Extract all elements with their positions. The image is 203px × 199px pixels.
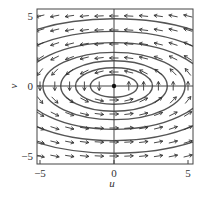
arrow-icon bbox=[169, 112, 177, 116]
x-axis-label: u bbox=[109, 177, 115, 189]
arrow-icon bbox=[154, 28, 163, 31]
arrow-icon bbox=[154, 42, 163, 45]
arrow-icon bbox=[184, 126, 192, 130]
arrow-icon bbox=[37, 68, 43, 75]
arrow-icon bbox=[154, 14, 163, 17]
arrow-icon bbox=[95, 112, 104, 115]
arrow-icon bbox=[124, 112, 133, 115]
arrow-icon bbox=[80, 140, 89, 143]
arrow-icon bbox=[169, 42, 178, 45]
arrow-icon bbox=[184, 14, 193, 17]
arrow-icon bbox=[51, 56, 59, 60]
arrow-icon bbox=[169, 56, 177, 60]
arrow-icon bbox=[139, 112, 148, 115]
arrow-icon bbox=[95, 71, 104, 74]
x-tick-label: −5 bbox=[34, 167, 46, 179]
arrow-icon bbox=[80, 57, 89, 60]
arrow-icon bbox=[80, 28, 89, 31]
arrow-icon bbox=[185, 68, 191, 75]
phase-portrait-plot: −505−505 u v bbox=[0, 0, 203, 199]
arrow-icon bbox=[50, 141, 59, 144]
arrow-icon bbox=[155, 97, 162, 102]
arrow-icon bbox=[154, 154, 163, 157]
arrow-icon bbox=[50, 15, 59, 18]
arrow-icon bbox=[66, 69, 73, 74]
arrow-icon bbox=[51, 112, 59, 116]
y-tick-label: 0 bbox=[28, 80, 34, 92]
arrow-icon bbox=[139, 14, 148, 17]
arrow-icon bbox=[169, 154, 178, 157]
arrow-icon bbox=[65, 14, 74, 17]
arrow-icon bbox=[124, 154, 133, 157]
arrow-icon bbox=[95, 154, 104, 157]
arrow-icon bbox=[50, 29, 59, 32]
arrow-icon bbox=[184, 42, 192, 46]
arrow-icon bbox=[65, 127, 74, 130]
arrow-icon bbox=[65, 154, 74, 157]
arrow-icon bbox=[95, 14, 104, 17]
arrow-icon bbox=[169, 14, 178, 17]
arrow-icon bbox=[124, 98, 133, 101]
arrow-icon bbox=[65, 29, 74, 32]
arrow-icon bbox=[154, 126, 163, 129]
x-tick-label: 5 bbox=[185, 167, 191, 179]
y-tick-label: 5 bbox=[28, 10, 34, 22]
arrow-icon bbox=[169, 28, 178, 31]
arrow-icon bbox=[169, 126, 178, 129]
equilibrium-point bbox=[112, 84, 116, 88]
arrow-icon bbox=[139, 140, 148, 143]
arrow-icon bbox=[50, 155, 59, 158]
arrow-icon bbox=[169, 140, 178, 143]
arrow-icon bbox=[80, 154, 89, 157]
arrow-icon bbox=[139, 154, 148, 157]
arrow-icon bbox=[80, 14, 89, 17]
arrow-icon bbox=[139, 28, 148, 31]
arrow-icon bbox=[95, 56, 104, 59]
arrow-icon bbox=[185, 96, 191, 103]
arrow-icon bbox=[65, 141, 74, 144]
arrow-icon bbox=[51, 127, 60, 130]
arrow-icon bbox=[155, 69, 162, 74]
y-axis-label: v bbox=[7, 83, 19, 88]
y-tick-label: −5 bbox=[21, 150, 33, 162]
arrow-icon bbox=[66, 97, 73, 102]
arrow-icon bbox=[37, 96, 43, 103]
arrow-icon bbox=[184, 154, 193, 157]
arrow-icon bbox=[124, 14, 133, 17]
arrow-icon bbox=[154, 140, 163, 143]
arrow-icon bbox=[51, 43, 60, 46]
arrow-icon bbox=[65, 43, 74, 46]
arrow-icon bbox=[124, 56, 133, 59]
